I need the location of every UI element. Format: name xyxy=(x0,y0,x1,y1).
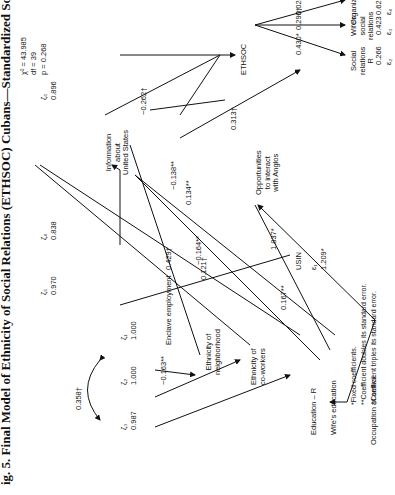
eps2-value: 0.266 xyxy=(375,46,384,65)
note-triples: †Coefficient triples its standard error. xyxy=(370,291,378,405)
path-diagram: ig. 5. Final Model of Ethnicity of Socia… xyxy=(0,0,395,495)
zeta1-value: 1.000 xyxy=(130,321,139,340)
coef-ethsoc-social: 0.430* xyxy=(295,33,304,55)
eps4-value: 0.627 xyxy=(375,0,384,15)
node-ethnicity-neighborhood: Ethnicity ofneighborhood xyxy=(205,329,222,375)
coef-occ-opp: 0.167** xyxy=(280,285,289,310)
node-information-us: InformationaboutUnited States xyxy=(105,130,131,175)
zeta5: ζ₅ xyxy=(40,289,49,295)
coef-occ-cowork: −0.163** xyxy=(160,356,169,385)
eps3-value: 0.423 xyxy=(375,16,384,35)
chi-square: χ² = 43.985 xyxy=(20,37,29,75)
node-education: Education – R xyxy=(310,388,319,435)
coef-wifeedu-info: 0.121† xyxy=(200,257,209,280)
coef-info-ethsoc: −0.262† xyxy=(140,88,149,115)
coef-cowork-info: 0.134** xyxy=(185,180,194,205)
coef-neigh-info: −0.138** xyxy=(170,161,179,190)
coef-educ-info: 0.429† xyxy=(165,247,174,270)
degrees-of-freedom: df = 39 xyxy=(30,52,39,75)
coef-correlation: 0.358† xyxy=(75,387,84,410)
note-doubles: **Coefficient doubles its standard error… xyxy=(360,284,368,405)
note-fixed: *Fixed coefficients. xyxy=(350,346,358,405)
zeta6-value: 0.896 xyxy=(50,81,59,100)
coef-usin: 1.837* xyxy=(270,228,279,250)
eps1: ε₁ xyxy=(310,264,319,270)
node-ethnicity-coworkers: Ethnicity ofco-workers xyxy=(250,348,267,385)
eps3: ε₃ xyxy=(385,29,394,35)
zeta4-value: 0.838 xyxy=(50,221,59,240)
eps1-value: 1.209* xyxy=(320,248,329,270)
zeta3: ζ₃ xyxy=(120,424,129,430)
node-opportunities: Opportunitiesto interactwith Anglos xyxy=(255,150,281,195)
zeta2: ζ₂ xyxy=(120,379,129,385)
zeta6: ζ₆ xyxy=(40,94,49,100)
node-enclave-employment: Enclave employment xyxy=(165,275,174,345)
p-value: p = 0.268 xyxy=(40,44,49,76)
node-wife-education: Wife's education xyxy=(330,380,339,435)
eps2: ε₂ xyxy=(385,59,394,65)
zeta4: ζ₄ xyxy=(40,234,49,240)
zeta1: ζ₁ xyxy=(120,334,129,340)
node-ethsoc: ETHSOC xyxy=(240,44,249,75)
zeta2-value: 1.000 xyxy=(130,366,139,385)
zeta3-value: 0.987 xyxy=(130,411,139,430)
coef-opp-ethsoc: 0.313† xyxy=(230,107,239,130)
eps4: ε₄ xyxy=(385,9,394,15)
zeta5-value: 0.970 xyxy=(50,276,59,295)
node-usin: USIN xyxy=(295,252,304,270)
node-organizations: Organizations xyxy=(350,0,359,25)
node-social-relations: SocialrelationsR xyxy=(350,47,376,75)
coef-ethsoc-org: 0.028 xyxy=(295,0,304,15)
figure-title: ig. 5. Final Model of Ethnicity of Socia… xyxy=(2,0,11,485)
